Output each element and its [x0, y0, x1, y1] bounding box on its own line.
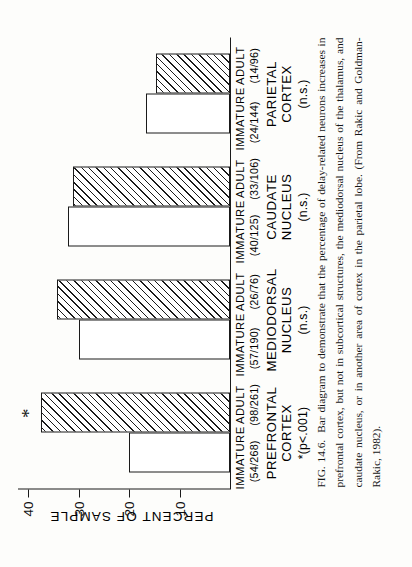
- figure-caption: FIG. 14.6.Bar diagram to demonstrate tha…: [312, 37, 386, 487]
- series-fraction: (14/96): [248, 37, 261, 94]
- category-significance: (n.s.): [296, 37, 310, 150]
- series-label-caudate-nucleus-immature: IMMATURE(40/125): [234, 207, 261, 264]
- category-group-caudate-nucleus: IMMATURE(40/125)ADULT(33/106)CAUDATENUCL…: [234, 150, 310, 263]
- series-fraction: (98/261): [248, 376, 261, 433]
- category-name-line1: PREFRONTAL: [264, 386, 279, 479]
- series-label-prefrontal-cortex-immature: IMMATURE(54/268): [234, 433, 261, 490]
- y-tick-40: [28, 489, 29, 497]
- category-name-line2: NUCLEUS: [279, 150, 294, 263]
- series-name: ADULT: [234, 46, 246, 85]
- series-name: ADULT: [234, 159, 246, 198]
- series-labels-prefrontal-cortex: IMMATURE(54/268)ADULT(98/261): [234, 376, 261, 489]
- series-fraction: (57/190): [248, 320, 261, 377]
- series-name: IMMATURE: [234, 87, 246, 150]
- category-name-line2: CORTEX: [279, 376, 294, 489]
- category-name-mediodorsal-nucleus: MEDIODORSALNUCLEUS(n.s.): [264, 263, 310, 376]
- category-name-prefrontal-cortex: PREFRONTALCORTEX*(p<.001): [264, 376, 310, 489]
- category-name-line1: MEDIODORSAL: [264, 268, 279, 371]
- x-axis-baseline: [230, 37, 231, 489]
- bar-mediodorsal-nucleus-immature: [79, 320, 230, 360]
- bar-parietal-cortex-adult: [156, 54, 230, 94]
- y-tick-10: [180, 489, 181, 497]
- rotated-figure-stage: 40302010 PERCENT OF SAMPLE * IMMATURE(54…: [0, 0, 412, 567]
- series-fraction: (26/76): [248, 263, 261, 320]
- series-label-parietal-cortex-adult: ADULT(14/96): [234, 37, 261, 94]
- bar-caudate-nucleus-adult: [73, 167, 230, 207]
- category-name-parietal-cortex: PARIETALCORTEX(n.s.): [264, 37, 310, 150]
- series-name: IMMATURE: [234, 200, 246, 263]
- category-significance: (n.s.): [296, 263, 310, 376]
- series-name: ADULT: [234, 272, 246, 311]
- y-axis-title: PERCENT OF SAMPLE: [17, 509, 247, 524]
- category-significance: *(p<.001): [296, 376, 310, 489]
- bar-prefrontal-cortex-adult: [41, 393, 230, 433]
- series-label-mediodorsal-nucleus-immature: IMMATURE(57/190): [234, 320, 261, 377]
- caption-text: Bar diagram to demonstrate that the perc…: [315, 37, 382, 487]
- bar-mediodorsal-nucleus-adult: [57, 280, 230, 320]
- bar-caudate-nucleus-immature: [68, 207, 230, 247]
- series-fraction: (24/144): [248, 94, 261, 151]
- series-label-mediodorsal-nucleus-adult: ADULT(26/76): [234, 263, 261, 320]
- category-name-line2: CORTEX: [279, 37, 294, 150]
- series-name: IMMATURE: [234, 313, 246, 376]
- y-tick-20: [129, 489, 130, 497]
- figure-plate: 40302010 PERCENT OF SAMPLE * IMMATURE(54…: [0, 0, 412, 567]
- category-name-line1: PARIETAL: [264, 61, 279, 127]
- bar-parietal-cortex-immature: [146, 94, 230, 134]
- series-name: IMMATURE: [234, 426, 246, 489]
- series-name: ADULT: [234, 385, 246, 424]
- plot-area: *: [18, 37, 230, 489]
- bar-prefrontal-cortex-immature: [129, 433, 230, 473]
- series-labels-caudate-nucleus: IMMATURE(40/125)ADULT(33/106): [234, 150, 261, 263]
- series-label-prefrontal-cortex-adult: ADULT(98/261): [234, 376, 261, 433]
- series-fraction: (40/125): [248, 207, 261, 264]
- category-significance: (n.s.): [296, 150, 310, 263]
- figure-number: FIG. 14.6.: [315, 439, 327, 487]
- series-labels-mediodorsal-nucleus: IMMATURE(57/190)ADULT(26/76): [234, 263, 261, 376]
- bar-chart: 40302010 PERCENT OF SAMPLE * IMMATURE(54…: [0, 0, 300, 567]
- category-name-line1: CAUDATE: [264, 174, 279, 240]
- significance-star-prefrontal-cortex: *: [19, 408, 38, 418]
- series-fraction: (54/268): [248, 433, 261, 490]
- category-name-line2: NUCLEUS: [279, 263, 294, 376]
- series-fraction: (33/106): [248, 150, 261, 207]
- category-name-caudate-nucleus: CAUDATENUCLEUS(n.s.): [264, 150, 310, 263]
- category-group-mediodorsal-nucleus: IMMATURE(57/190)ADULT(26/76)MEDIODORSALN…: [234, 263, 310, 376]
- category-group-parietal-cortex: IMMATURE(24/144)ADULT(14/96)PARIETALCORT…: [234, 37, 310, 150]
- series-labels-parietal-cortex: IMMATURE(24/144)ADULT(14/96): [234, 37, 261, 150]
- y-tick-30: [79, 489, 80, 497]
- series-label-parietal-cortex-immature: IMMATURE(24/144): [234, 94, 261, 151]
- category-group-prefrontal-cortex: IMMATURE(54/268)ADULT(98/261)PREFRONTALC…: [234, 376, 310, 489]
- series-label-caudate-nucleus-adult: ADULT(33/106): [234, 150, 261, 207]
